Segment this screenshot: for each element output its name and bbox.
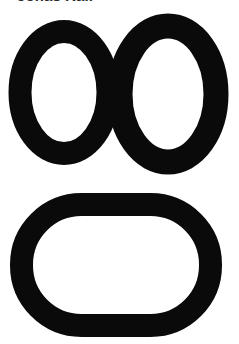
figure-canvas (0, 0, 239, 344)
infinity-symbol (20, 26, 216, 162)
page-root: Jonas Rail (0, 0, 239, 344)
rounded-oval (22, 205, 211, 326)
shapes-svg (0, 0, 239, 344)
infinity-left-lobe (20, 32, 108, 154)
infinity-right-lobe (120, 26, 216, 162)
rounded-oval-ring (22, 205, 211, 326)
